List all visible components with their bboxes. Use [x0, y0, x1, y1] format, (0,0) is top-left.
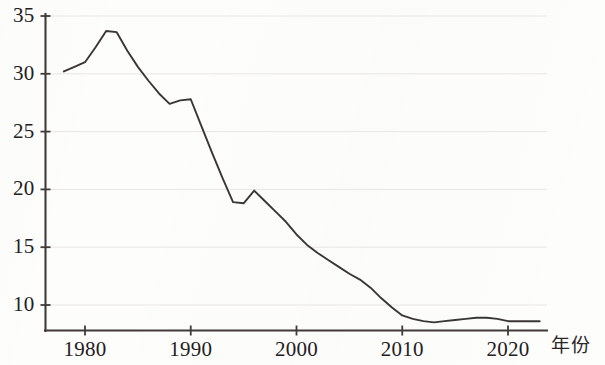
x-tick-label: 2020 [468, 339, 548, 360]
data-series-line [64, 31, 540, 322]
x-tick-label: 1980 [45, 339, 125, 360]
gridlines [47, 16, 548, 305]
y-tick-label: 35 [0, 5, 35, 26]
y-tick-label: 20 [0, 178, 35, 199]
x-tick-label: 2010 [362, 339, 442, 360]
x-axis-title: 年份 [551, 330, 591, 357]
axis-ticks [41, 16, 509, 336]
y-tick-label: 15 [0, 236, 35, 257]
y-tick-label: 30 [0, 63, 35, 84]
y-tick-label: 10 [0, 294, 35, 315]
x-tick-label: 1990 [151, 339, 231, 360]
chart-figure: 101520253035 19801990200020102020 年份 [0, 0, 605, 365]
x-tick-label: 2000 [257, 339, 337, 360]
y-tick-label: 25 [0, 121, 35, 142]
line-chart-plot [0, 0, 605, 365]
